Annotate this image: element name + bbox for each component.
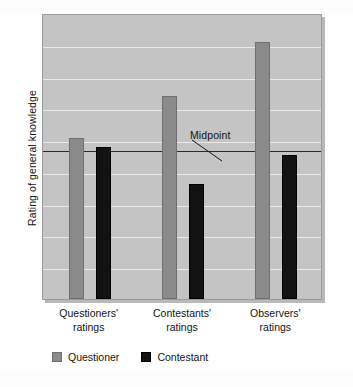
legend-label-contestant: Contestant (157, 351, 208, 363)
legend-label-questioner: Questioner (68, 351, 119, 363)
gridline (43, 174, 321, 175)
gridline (43, 237, 321, 238)
black-square-swatch-icon (141, 352, 151, 362)
gridline (43, 79, 321, 80)
x-axis-label-group-2: Observers' ratings (229, 306, 322, 346)
page-top-margin (0, 0, 353, 14)
bar-questioner-0 (69, 138, 84, 299)
x-axis-label-line2: ratings (229, 320, 322, 334)
gridline (43, 47, 321, 48)
bar-questioner-1 (162, 96, 177, 299)
gridline (43, 142, 321, 143)
midpoint-leader-line (188, 138, 228, 164)
chart-legend: Questioner Contestant (52, 351, 208, 363)
bar-questioner-2 (255, 42, 270, 299)
bar-contestant-0 (96, 147, 111, 299)
plot-area (42, 14, 322, 300)
gray-square-swatch-icon (52, 352, 62, 362)
y-axis-title: Rating of general knowledge (26, 48, 38, 268)
x-axis-label-line1: Questioners' (59, 307, 118, 319)
legend-item-questioner: Questioner (52, 351, 119, 363)
x-axis-label-line1: Contestants' (153, 307, 211, 319)
x-axis-label-group-1: Contestants' ratings (135, 306, 228, 346)
gridline (43, 110, 321, 111)
x-axis-label-line2: ratings (135, 320, 228, 334)
legend-item-contestant: Contestant (141, 351, 208, 363)
bar-contestant-2 (282, 155, 297, 299)
x-axis-labels: Questioners' ratings Contestants' rating… (42, 306, 322, 346)
bar-chart-figure: Rating of general knowledge Midpoint Que… (0, 0, 353, 387)
x-axis-label-group-0: Questioners' ratings (42, 306, 135, 346)
x-axis-label-line1: Observers' (250, 307, 300, 319)
page-bottom-margin (0, 373, 353, 387)
midpoint-reference-line (43, 151, 321, 152)
gridline (43, 269, 321, 270)
gridline (43, 206, 321, 207)
x-axis-label-line2: ratings (42, 320, 135, 334)
bar-contestant-1 (189, 184, 204, 299)
